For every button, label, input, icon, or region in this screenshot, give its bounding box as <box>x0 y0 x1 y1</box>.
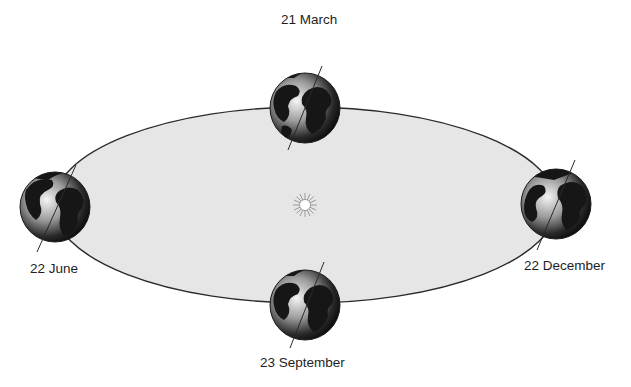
label-22-december: 22 December <box>524 258 605 273</box>
label-21-march: 21 March <box>281 12 337 27</box>
label-23-september: 23 September <box>260 355 345 370</box>
label-22-june: 22 June <box>30 261 78 276</box>
sun-icon <box>293 193 317 217</box>
orbit-diagram: 21 March 22 June 22 December 23 Septembe… <box>0 0 631 387</box>
orbit-svg <box>0 0 631 387</box>
